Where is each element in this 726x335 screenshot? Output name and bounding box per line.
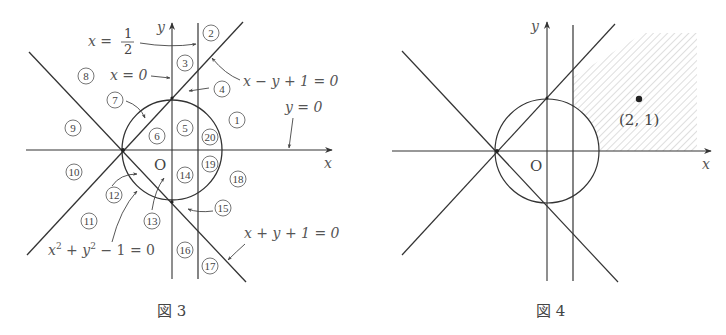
x-axis-label: x [324, 155, 332, 171]
label-line-lower: x + y + 1 = 0 [244, 225, 340, 241]
point-0-1 [546, 97, 549, 100]
figure-4-caption: 図 4 [536, 302, 565, 320]
svg-text:13: 13 [147, 215, 159, 227]
region-4: 4 [214, 81, 230, 97]
region-7: 7 [107, 92, 123, 108]
region-5: 5 [177, 120, 193, 136]
region-14: 14 [177, 167, 193, 183]
region-3: 3 [177, 55, 193, 71]
point-minus-1-0 [121, 148, 125, 152]
origin-label: O [154, 156, 166, 174]
svg-text:18: 18 [233, 173, 245, 185]
svg-text:12: 12 [109, 189, 120, 201]
region-20: 20 [202, 129, 218, 145]
x-axis-label: x [702, 156, 710, 172]
svg-text:16: 16 [180, 244, 192, 256]
figure-4: y x O (2, 1) 図 4 [392, 18, 711, 320]
region-13: 13 [144, 213, 160, 229]
svg-text:7: 7 [112, 94, 118, 106]
svg-text:5: 5 [182, 122, 188, 134]
label-x-half-num: 1 [124, 26, 132, 41]
arrow-line-upper [212, 58, 240, 80]
svg-text:8: 8 [83, 70, 89, 82]
point-minus-1-0 [495, 149, 499, 153]
y-axis-label: y [156, 19, 166, 35]
arrow-x-half [140, 43, 196, 46]
label-y-zero: y = 0 [284, 99, 323, 115]
arrow-x-zero [151, 76, 170, 78]
region-16: 16 [177, 242, 193, 258]
svg-text:1: 1 [234, 114, 240, 126]
label-line-upper: x − y + 1 = 0 [243, 73, 339, 89]
svg-text:9: 9 [70, 122, 76, 134]
region-11: 11 [81, 213, 97, 229]
svg-text:2: 2 [208, 27, 214, 39]
region-1: 1 [229, 112, 245, 128]
svg-text:6: 6 [154, 130, 160, 142]
region-17: 17 [202, 258, 218, 274]
svg-text:19: 19 [205, 158, 217, 170]
svg-text:10: 10 [69, 166, 81, 178]
region-19: 19 [202, 156, 218, 172]
label-x-half-lhs: x = [88, 33, 112, 49]
figure-3: y x O x = 1 2 x = 0 x − y + 1 = 0 y = 0 … [26, 19, 340, 320]
svg-text:17: 17 [205, 260, 217, 272]
svg-text:15: 15 [218, 202, 230, 214]
arrow-line-lower [228, 244, 245, 260]
region-10: 10 [66, 164, 82, 180]
figure-3-caption: 図 3 [157, 302, 186, 320]
arrow-region-12 [112, 174, 137, 186]
origin-label: O [530, 157, 542, 175]
arrow-y-zero [289, 118, 293, 148]
point-2-1-label: (2, 1) [619, 111, 659, 129]
svg-text:20: 20 [205, 131, 217, 143]
point-0-1 [170, 96, 173, 99]
label-x-half-den: 2 [124, 42, 132, 57]
svg-text:11: 11 [84, 215, 95, 227]
label-circle-eq: x2 + y2 − 1 = 0 [48, 241, 155, 258]
region-6: 6 [149, 128, 165, 144]
region-18: 18 [230, 171, 246, 187]
label-x-zero: x = 0 [110, 67, 148, 83]
diagram-canvas: y x O x = 1 2 x = 0 x − y + 1 = 0 y = 0 … [0, 0, 726, 335]
region-9: 9 [65, 120, 81, 136]
svg-text:14: 14 [180, 169, 192, 181]
point-2-1 [636, 96, 642, 102]
region-8: 8 [78, 68, 94, 84]
svg-text:4: 4 [219, 83, 225, 95]
point-0-minus-1 [170, 200, 173, 203]
y-axis-label: y [530, 18, 540, 34]
region-15: 15 [215, 200, 231, 216]
region-2: 2 [203, 25, 219, 41]
svg-text:3: 3 [182, 57, 188, 69]
shaded-region [495, 25, 710, 203]
region-12: 12 [106, 187, 122, 203]
arrow-region-15 [188, 209, 213, 212]
arrow-region-4 [189, 88, 209, 91]
